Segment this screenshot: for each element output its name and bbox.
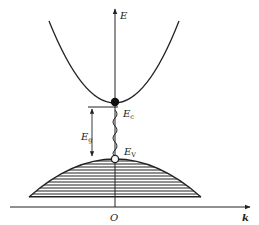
conduction-band [49, 21, 179, 103]
ev-label: EV [123, 146, 136, 159]
eg-label: Eg [80, 131, 92, 144]
band-diagram: E Ec Eg EV O k [0, 0, 259, 225]
electron-dot [111, 98, 119, 106]
k-axis-label: k [242, 212, 249, 223]
hole-circle [111, 155, 118, 162]
ec-label: Ec [122, 108, 134, 121]
origin-label: O [110, 212, 118, 223]
e-axis-label: E [119, 10, 128, 21]
